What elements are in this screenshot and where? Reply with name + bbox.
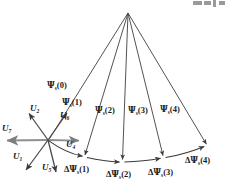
delta-flux-segment-3	[124, 158, 160, 162]
vector-u2-line	[29, 114, 48, 141]
vector-u7-line	[7, 140, 48, 141]
flux-vector-2	[123, 13, 129, 160]
psi-3-sub: s	[136, 110, 138, 116]
label-u1-sub: 1	[20, 156, 23, 162]
label-vector-u6: U6	[60, 111, 69, 120]
label-u2-sub: 2	[37, 108, 40, 114]
delta-psi-1-sub: s	[77, 169, 79, 175]
label-flux-psi-3: Ψs(3)	[128, 106, 148, 115]
label-flux-psi-4: Ψs(4)	[160, 105, 180, 114]
label-vector-u5: U5	[42, 163, 51, 172]
label-u7-sub: 7	[9, 128, 12, 134]
label-u2-text: U	[30, 103, 37, 113]
delta-psi-1-arg: (1)	[79, 164, 89, 174]
delta-psi-3-arg: (3)	[163, 167, 173, 177]
delta-psi-2-arg: (2)	[121, 169, 131, 179]
label-vector-u1: U1	[13, 152, 22, 161]
psi-glyph: Ψ	[47, 80, 55, 90]
label-vector-u2: U2	[30, 104, 39, 113]
label-delta-flux-2: ΔΨs(2)	[106, 170, 131, 179]
label-delta-flux-1: ΔΨs(1)	[64, 165, 89, 174]
label-u4-sub: 4	[73, 144, 76, 150]
psi-glyph: Ψ	[190, 155, 198, 165]
psi-glyph: Ψ	[128, 105, 136, 115]
psi-1-sub: s	[70, 102, 72, 108]
psi-glyph: Ψ	[95, 105, 103, 115]
delta-psi-2-sub: s	[119, 174, 121, 180]
psi-glyph: Ψ	[160, 104, 168, 114]
psi-2-sub: s	[103, 110, 105, 116]
psi-glyph: Ψ	[62, 97, 70, 107]
psi-0-sub: s	[55, 85, 57, 91]
flux-vector-1	[85, 13, 128, 155]
label-u7-text: U	[2, 123, 9, 133]
label-u4-text: U	[66, 139, 73, 149]
flux-vector-diagram: U1 U2 U7 U6 U4 U5 Ψs(0) Ψs(1) Ψs(2) Ψs(3…	[0, 0, 231, 192]
label-delta-flux-3: ΔΨs(3)	[148, 168, 173, 177]
cropped-corner-artifact	[191, 0, 231, 9]
delta-psi-4-sub: s	[198, 160, 200, 166]
delta-flux-segment-2	[87, 158, 120, 162]
label-flux-psi-0: Ψs(0)	[47, 81, 67, 90]
label-flux-psi-2: Ψs(2)	[95, 106, 115, 115]
label-u6-text: U	[60, 110, 67, 120]
label-delta-flux-4: ΔΨs(4)	[185, 156, 210, 165]
psi-2-arg: (2)	[105, 105, 115, 115]
flux-vector-3	[128, 13, 163, 156]
label-vector-u4: U4	[66, 140, 75, 149]
psi-4-arg: (4)	[170, 104, 180, 114]
psi-glyph: Ψ	[69, 164, 77, 174]
label-flux-psi-1: Ψs(1)	[62, 98, 82, 107]
label-u1-text: U	[13, 151, 20, 161]
label-vector-u7: U7	[2, 124, 11, 133]
label-u6-sub: 6	[67, 115, 70, 121]
delta-psi-3-sub: s	[161, 172, 163, 178]
psi-0-arg: (0)	[57, 80, 67, 90]
psi-glyph: Ψ	[153, 167, 161, 177]
psi-3-arg: (3)	[138, 105, 148, 115]
psi-glyph: Ψ	[111, 169, 119, 179]
label-u5-sub: 5	[49, 167, 52, 173]
label-u5-text: U	[42, 162, 49, 172]
delta-psi-4-arg: (4)	[200, 155, 210, 165]
psi-1-arg: (1)	[72, 97, 82, 107]
flux-vector-4	[128, 13, 206, 144]
flux-vector-group	[50, 13, 207, 160]
psi-4-sub: s	[168, 109, 170, 115]
